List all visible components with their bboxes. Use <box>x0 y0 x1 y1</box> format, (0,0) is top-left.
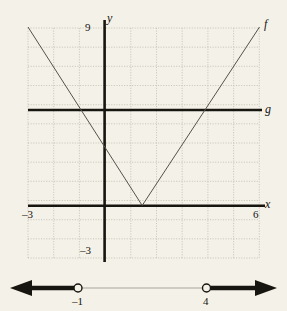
y-axis-name-label: y <box>107 12 112 24</box>
x-axis-max-label: 6 <box>253 209 259 220</box>
x-axis-min-label: –3 <box>22 209 33 220</box>
number-line-open-point-right <box>203 284 211 292</box>
function-f-label: f <box>264 18 267 30</box>
number-line-open-point-left <box>74 284 82 292</box>
figure-canvas: 9 y f g x –3 6 –3 –1 4 <box>0 0 287 311</box>
figure-background <box>0 0 287 311</box>
graph-and-number-line-figure <box>0 0 287 311</box>
number-line-label-right: 4 <box>203 296 209 307</box>
number-line-label-left: –1 <box>72 296 83 307</box>
function-g-label: g <box>265 103 271 115</box>
x-axis-name-label: x <box>265 198 270 210</box>
y-axis-min-label: –3 <box>80 245 91 256</box>
y-axis-max-label: 9 <box>85 22 91 33</box>
